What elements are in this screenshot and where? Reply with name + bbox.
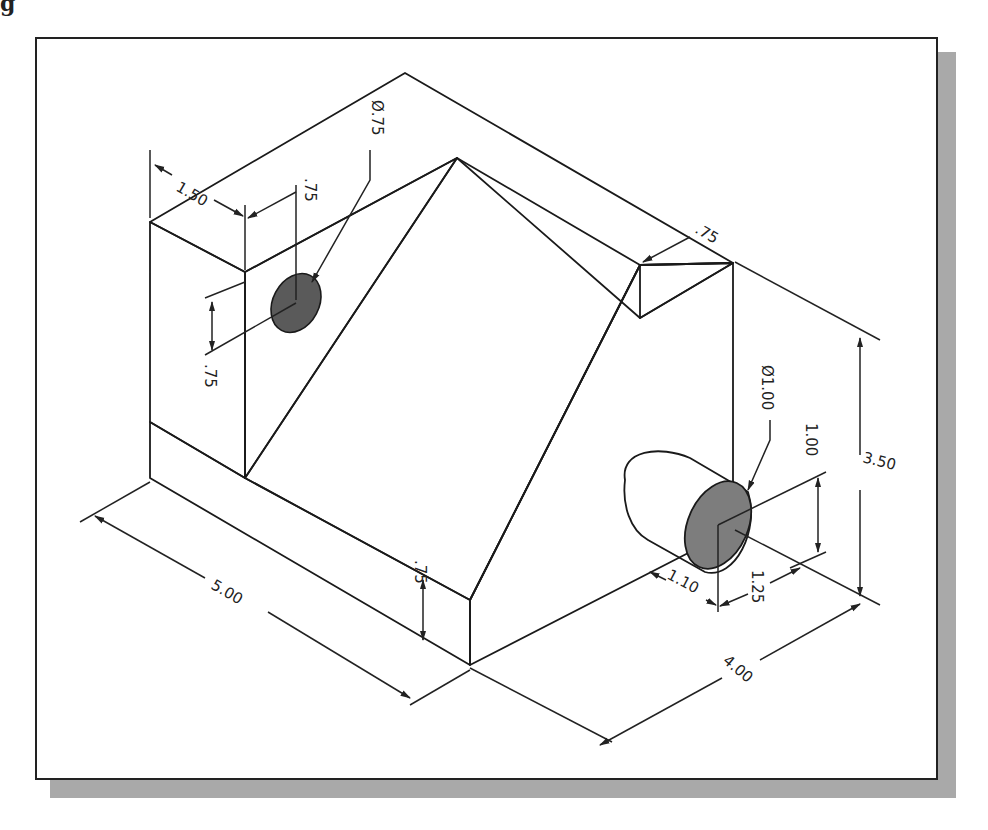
face-top-back [150, 73, 733, 318]
dim-hole-offset-side: .75 [201, 364, 219, 388]
block-body [150, 73, 733, 665]
face-front-base [150, 422, 470, 665]
dim-overall-depth: 4.00 [719, 651, 756, 686]
dim-boss-height-offset: 1.00 [802, 423, 820, 456]
cylindrical-boss [624, 451, 764, 579]
dimension-lines [80, 150, 880, 745]
dim-right-ledge: .75 [692, 220, 722, 248]
dim-overall-length: 5.00 [208, 576, 246, 608]
dim-boss-side-offset: 1.25 [748, 570, 766, 603]
dim-base-thickness: .75 [411, 560, 429, 584]
isometric-drawing: 1.50 .75 Ø.75 .75 .75 3.50 Ø1.00 1.00 1.… [0, 0, 988, 830]
dim-overall-height: 3.50 [861, 448, 898, 474]
dim-hole-diameter: Ø.75 [368, 100, 386, 136]
dim-boss-diameter: Ø1.00 [758, 365, 776, 410]
face-inclined [245, 158, 640, 600]
dim-boss-length: 1.10 [664, 566, 702, 598]
face-top-right-ledge [640, 263, 733, 318]
face-right [470, 263, 733, 665]
dim-hole-offset-top: .75 [301, 178, 319, 202]
face-front-left-wall [150, 222, 245, 478]
